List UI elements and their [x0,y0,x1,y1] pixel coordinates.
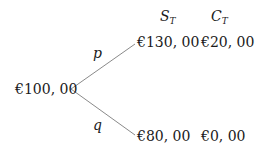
down-call-value: €0, 00 [201,128,246,144]
stock-header: ST [160,8,176,29]
lower-branch-edge [71,89,135,135]
upper-branch-edge [71,44,135,89]
up-probability: p [93,45,102,61]
up-stock-value: €130, 00 [137,34,199,50]
down-stock-value: €80, 00 [137,128,190,144]
root-value: €100, 00 [15,81,77,97]
up-call-value: €20, 00 [201,34,254,50]
down-probability: q [93,117,102,133]
call-header: CT [211,8,228,29]
